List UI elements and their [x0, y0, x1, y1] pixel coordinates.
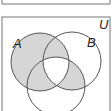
- label-universe: U: [99, 17, 109, 32]
- label-a: A: [12, 36, 22, 51]
- previous-frame-edge: [2, 0, 110, 4]
- label-b: B: [87, 35, 96, 50]
- venn-diagram: A B U: [0, 0, 112, 111]
